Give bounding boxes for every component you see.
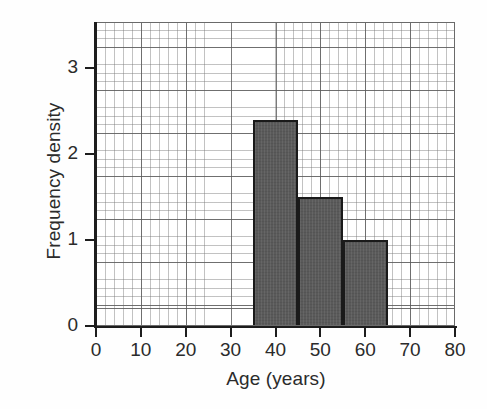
- x-axis-tick-label: 50: [295, 339, 345, 361]
- x-axis-tick: [185, 328, 187, 337]
- y-axis-tick: [85, 153, 94, 155]
- y-axis-tick-label: 2: [44, 142, 78, 164]
- x-axis-title: Age (years): [96, 368, 456, 390]
- x-axis-tick-label: 30: [206, 339, 256, 361]
- y-axis-tick: [85, 67, 94, 69]
- plot-area: [96, 22, 455, 326]
- x-axis-tick: [230, 328, 232, 337]
- x-axis-tick: [364, 328, 366, 337]
- x-axis-tick: [275, 328, 277, 337]
- y-axis-line: [94, 22, 97, 328]
- histogram-bar: [253, 120, 298, 326]
- y-axis-tick-label: 0: [44, 314, 78, 336]
- histogram-figure: Frequency density 010203040506070800123 …: [0, 0, 487, 409]
- x-axis-tick: [140, 328, 142, 337]
- x-axis-tick-label: 60: [340, 339, 390, 361]
- x-axis-tick-label: 70: [385, 339, 435, 361]
- histogram-bar: [298, 197, 343, 326]
- x-axis-tick-label: 0: [71, 339, 121, 361]
- x-axis-tick: [95, 328, 97, 337]
- x-axis-tick-label: 80: [430, 339, 480, 361]
- histogram-bar: [343, 240, 388, 326]
- x-axis-tick-label: 40: [251, 339, 301, 361]
- x-axis-tick-label: 20: [161, 339, 211, 361]
- y-axis-tick-label: 1: [44, 228, 78, 250]
- y-axis-tick-label: 3: [44, 56, 78, 78]
- y-axis-tick: [85, 239, 94, 241]
- x-axis-tick: [319, 328, 321, 337]
- x-axis-tick: [454, 328, 456, 337]
- x-axis-tick: [409, 328, 411, 337]
- y-axis-tick: [85, 325, 94, 327]
- x-axis-tick-label: 10: [116, 339, 166, 361]
